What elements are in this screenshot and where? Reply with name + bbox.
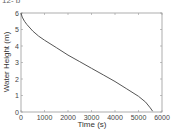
y-tick-label: 4 [15, 43, 19, 50]
y-tick-label: 6 [15, 10, 19, 17]
y-tick-label: 1 [15, 92, 19, 99]
x-tick-label: 4000 [107, 114, 123, 121]
y-tick-label: 0 [15, 109, 19, 116]
y-tick-label: 3 [15, 59, 19, 66]
water-height-curve [21, 13, 153, 111]
line-chart: 01000200030004000500060000123456 Time (s… [0, 0, 179, 130]
tick-labels: 01000200030004000500060000123456 [15, 10, 170, 122]
y-tick-label: 2 [15, 76, 19, 83]
x-tick-label: 5000 [131, 114, 147, 121]
y-axis-label: Water Height (m) [2, 31, 11, 92]
axes [21, 13, 162, 112]
x-tick-label: 6000 [154, 114, 170, 121]
x-axis-label: Time (s) [77, 120, 106, 129]
x-tick-label: 0 [19, 114, 23, 121]
x-tick-label: 1000 [37, 114, 53, 121]
y-tick-label: 5 [15, 26, 19, 33]
x-tick-label: 2000 [60, 114, 76, 121]
